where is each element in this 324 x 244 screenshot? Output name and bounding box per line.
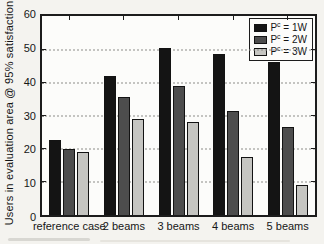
y-tick-label: 50 (0, 42, 36, 54)
bar (282, 127, 294, 215)
tick-mark (123, 16, 124, 20)
tick-mark (311, 181, 315, 182)
tick-mark (311, 115, 315, 116)
tick-mark (311, 148, 315, 149)
scan-smudge (8, 238, 90, 241)
tick-mark (42, 49, 46, 50)
bar-group (213, 54, 253, 215)
tick-mark (42, 115, 46, 116)
bar (296, 185, 308, 215)
scan-smudge (100, 240, 290, 242)
legend-label: Pc = 2W (270, 34, 307, 45)
tick-mark (42, 148, 46, 149)
bar-group (104, 76, 144, 215)
tick-mark (178, 16, 179, 20)
x-tick-label: 2 beams (103, 220, 145, 232)
bar (49, 140, 61, 215)
tick-mark (42, 181, 46, 182)
bar (104, 76, 116, 215)
legend-item: Pc = 2W (254, 34, 307, 45)
bar-group (159, 48, 199, 215)
bar-group (268, 62, 308, 215)
y-axis-ticks: 0102030405060 (0, 14, 36, 217)
bar (227, 111, 239, 215)
legend: Pc = 1WPc = 2WPc = 3W (249, 18, 313, 61)
tick-mark (233, 16, 234, 20)
y-tick-label: 0 (0, 211, 36, 223)
y-tick-label: 10 (0, 177, 36, 189)
legend-label: Pc = 1W (270, 22, 307, 33)
legend-item: Pc = 3W (254, 46, 307, 57)
y-tick-label: 20 (0, 143, 36, 155)
tick-mark (69, 16, 70, 20)
x-tick-label: 5 beams (267, 220, 309, 232)
legend-label: Pc = 3W (270, 46, 307, 57)
bar (77, 152, 89, 215)
tick-mark (311, 82, 315, 83)
tick-mark (311, 49, 315, 50)
tick-mark (42, 82, 46, 83)
x-axis-ticks: reference case2 beams3 beams4 beams5 bea… (40, 220, 317, 234)
legend-item: Pc = 1W (254, 22, 307, 33)
y-tick-label: 60 (0, 8, 36, 20)
x-tick-label: 3 beams (157, 220, 199, 232)
bar (241, 157, 253, 215)
bar (268, 62, 280, 215)
bar (173, 86, 185, 215)
y-tick-label: 40 (0, 76, 36, 88)
legend-swatch (254, 36, 267, 44)
tick-mark (287, 16, 288, 20)
bar-group (49, 140, 89, 215)
bar (118, 97, 130, 215)
legend-swatch (254, 24, 267, 32)
y-tick-label: 30 (0, 110, 36, 122)
plot-area: Pc = 1WPc = 2WPc = 3W (40, 14, 317, 217)
figure: Users in evaluation area @ 95% satisfact… (0, 0, 324, 244)
bar (213, 54, 225, 215)
bar (159, 48, 171, 215)
x-tick-label: 4 beams (212, 220, 254, 232)
bar (132, 119, 144, 215)
bar (63, 149, 75, 215)
bar (187, 122, 199, 215)
x-tick-label: reference case (33, 220, 106, 232)
